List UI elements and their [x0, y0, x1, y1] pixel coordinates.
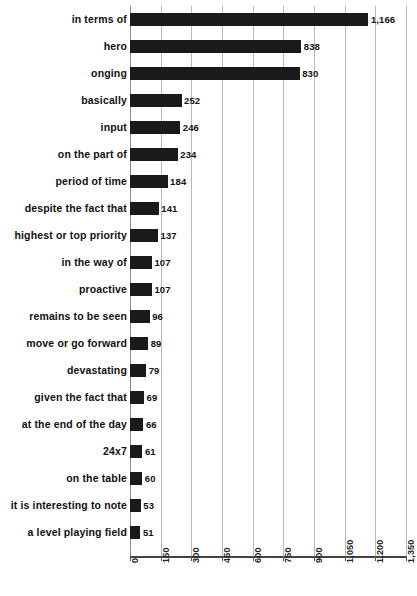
bar-value-label: 53	[141, 492, 154, 519]
category-label: proactive	[79, 276, 127, 303]
category-label: on the part of	[58, 141, 127, 168]
bar-value-label: 89	[148, 330, 161, 357]
category-label: devastating	[67, 357, 127, 384]
bar[interactable]	[130, 40, 301, 53]
category-label: highest or top priority	[14, 222, 127, 249]
category-label: a level playing field	[28, 519, 127, 546]
bar[interactable]	[130, 499, 141, 512]
category-label: hero	[104, 33, 127, 60]
bar-row[interactable]: onging830	[130, 60, 406, 87]
bar-value-label: 61	[142, 438, 155, 465]
bar-value-label: 830	[300, 60, 319, 87]
bar[interactable]	[130, 175, 168, 188]
bar[interactable]	[130, 364, 146, 377]
bar-row[interactable]: move or go forward89	[130, 330, 406, 357]
bar-row[interactable]: hero838	[130, 33, 406, 60]
category-label: despite the fact that	[25, 195, 127, 222]
bar-value-label: 79	[146, 357, 159, 384]
bar-row[interactable]: on the part of234	[130, 141, 406, 168]
x-tick-label: 300	[191, 547, 201, 563]
category-label: 24x7	[103, 438, 127, 465]
category-label: remains to be seen	[29, 303, 127, 330]
bar-value-label: 107	[152, 276, 171, 303]
category-label: onging	[91, 60, 127, 87]
bar[interactable]	[130, 94, 182, 107]
bar[interactable]	[130, 391, 144, 404]
bar[interactable]	[130, 256, 152, 269]
bar-row[interactable]: in the way of107	[130, 249, 406, 276]
bar-row[interactable]: it is interesting to note53	[130, 492, 406, 519]
bar[interactable]	[130, 337, 148, 350]
bar-row[interactable]: at the end of the day66	[130, 411, 406, 438]
x-tick-label: 150	[161, 547, 171, 563]
bar[interactable]	[130, 445, 142, 458]
bar-value-label: 1,166	[368, 6, 395, 33]
bar[interactable]	[130, 202, 159, 215]
bar-row[interactable]: 24x761	[130, 438, 406, 465]
x-axis-ticks: 01503004506007509001,0501,2001,350	[130, 556, 406, 596]
category-label: input	[101, 114, 127, 141]
plot-area: in terms of1,166hero838onging830basicall…	[130, 6, 406, 556]
bar-row[interactable]: in terms of1,166	[130, 6, 406, 33]
bar[interactable]	[130, 121, 180, 134]
x-tick-label: 0	[130, 558, 140, 563]
category-label: it is interesting to note	[11, 492, 127, 519]
bar-chart: in terms of1,166hero838onging830basicall…	[0, 0, 417, 596]
bar-value-label: 838	[301, 33, 320, 60]
x-tick-label: 900	[314, 547, 324, 563]
bar-value-label: 141	[159, 195, 178, 222]
x-tick-label: 1,350	[406, 539, 416, 563]
category-label: basically	[81, 87, 127, 114]
bar-value-label: 66	[143, 411, 156, 438]
bar-value-label: 69	[144, 384, 157, 411]
category-label: in the way of	[61, 249, 127, 276]
bar-value-label: 96	[150, 303, 163, 330]
category-label: move or go forward	[26, 330, 127, 357]
bar-row[interactable]: input246	[130, 114, 406, 141]
bar-row[interactable]: basically252	[130, 87, 406, 114]
gridline-1350	[406, 6, 407, 556]
bar-value-label: 51	[140, 519, 153, 546]
bar-value-label: 252	[182, 87, 201, 114]
bar-row[interactable]: despite the fact that141	[130, 195, 406, 222]
bar-value-label: 184	[168, 168, 187, 195]
bar-value-label: 60	[142, 465, 155, 492]
category-label: period of time	[55, 168, 127, 195]
bar[interactable]	[130, 526, 140, 539]
bar[interactable]	[130, 67, 300, 80]
bar-row[interactable]: remains to be seen96	[130, 303, 406, 330]
bar[interactable]	[130, 148, 178, 161]
bar[interactable]	[130, 310, 150, 323]
category-label: on the table	[66, 465, 127, 492]
bar-row[interactable]: given the fact that69	[130, 384, 406, 411]
x-tick-label: 750	[283, 547, 293, 563]
bar-row[interactable]: proactive107	[130, 276, 406, 303]
bar[interactable]	[130, 13, 368, 26]
bar-row[interactable]: period of time184	[130, 168, 406, 195]
bar-row[interactable]: highest or top priority137	[130, 222, 406, 249]
bar-row[interactable]: a level playing field51	[130, 519, 406, 546]
x-tick-label: 1,050	[345, 539, 355, 563]
category-label: given the fact that	[34, 384, 127, 411]
bar-row[interactable]: on the table60	[130, 465, 406, 492]
bar[interactable]	[130, 229, 158, 242]
bar-value-label: 246	[180, 114, 199, 141]
bar-value-label: 107	[152, 249, 171, 276]
bar[interactable]	[130, 472, 142, 485]
bar-value-label: 137	[158, 222, 177, 249]
x-tick-label: 600	[253, 547, 263, 563]
x-tick-label: 450	[222, 547, 232, 563]
bar[interactable]	[130, 418, 143, 431]
bar-row[interactable]: devastating79	[130, 357, 406, 384]
bar[interactable]	[130, 283, 152, 296]
category-label: at the end of the day	[22, 411, 127, 438]
bar-value-label: 234	[178, 141, 197, 168]
category-label: in terms of	[72, 6, 127, 33]
x-tick-label: 1,200	[375, 539, 385, 563]
bar-rows: in terms of1,166hero838onging830basicall…	[130, 6, 406, 546]
